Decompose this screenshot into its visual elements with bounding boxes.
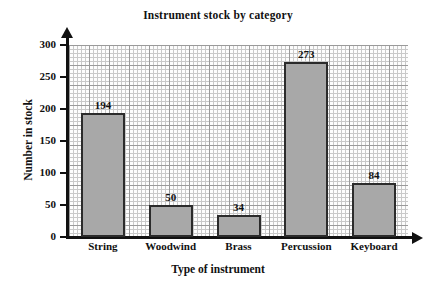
y-axis-line xyxy=(66,36,69,237)
bar-keyboard xyxy=(352,183,396,237)
bar-brass xyxy=(217,215,261,237)
y-tick-mark xyxy=(60,172,67,174)
y-tick-mark xyxy=(60,236,67,238)
y-tick-mark xyxy=(60,44,67,46)
x-axis-title: Type of instrument xyxy=(0,263,436,275)
bar-value-label: 34 xyxy=(209,201,269,213)
y-tick-label: 300 xyxy=(0,38,56,50)
bar-string xyxy=(81,113,125,237)
y-axis-arrow-icon xyxy=(61,27,73,38)
y-tick-mark xyxy=(60,76,67,78)
bar-value-label: 194 xyxy=(73,99,133,111)
y-tick-mark xyxy=(60,204,67,206)
bar-chart: Instrument stock by category 05010015020… xyxy=(0,0,436,290)
category-label-keyboard: Keyboard xyxy=(329,240,419,252)
y-tick-mark xyxy=(60,140,67,142)
y-tick-label: 0 xyxy=(0,230,56,242)
bar-value-label: 273 xyxy=(276,48,336,60)
chart-title: Instrument stock by category xyxy=(0,9,436,21)
y-axis-title: Number in stock xyxy=(22,65,34,215)
bar-percussion xyxy=(284,62,328,237)
bar-value-label: 50 xyxy=(141,191,201,203)
y-tick-mark xyxy=(60,108,67,110)
bar-woodwind xyxy=(149,205,193,237)
bar-value-label: 84 xyxy=(344,169,404,181)
